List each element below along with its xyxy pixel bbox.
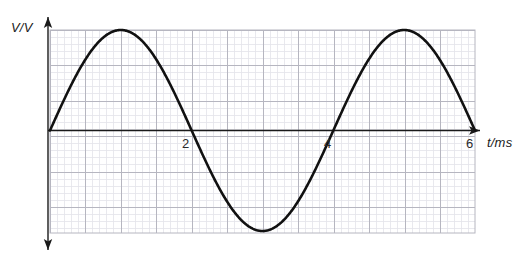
graph-canvas: [0, 0, 530, 262]
axes: [44, 17, 480, 250]
x-tick-label-4: 4: [324, 136, 331, 151]
y-axis-caption: V/V: [11, 20, 33, 35]
x-axis-caption: t/ms: [487, 135, 512, 150]
x-tick-label-2: 2: [182, 136, 189, 151]
x-tick-label-6: 6: [466, 136, 473, 151]
voltage-time-graph-figure: V/V t/ms 2 4 6: [0, 0, 530, 262]
